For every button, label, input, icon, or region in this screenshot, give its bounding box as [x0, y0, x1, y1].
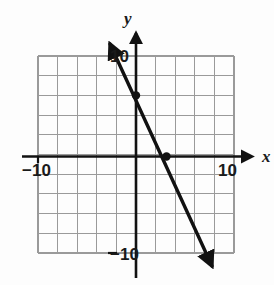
- x-axis-left-tick-label: −10: [22, 161, 51, 180]
- point-y-intercept: [132, 91, 140, 99]
- coordinate-plane-svg: y x −10 10 10 −10: [0, 0, 274, 285]
- point-x-intercept: [162, 152, 170, 160]
- y-axis-top-tick-label: 10: [110, 47, 129, 66]
- graph-figure: y x −10 10 10 −10: [0, 0, 274, 285]
- y-axis-bottom-tick-label: −10: [110, 245, 139, 264]
- x-axis-right-tick-label: 10: [218, 161, 237, 180]
- x-axis-name: x: [261, 147, 271, 166]
- y-axis-name: y: [122, 9, 132, 28]
